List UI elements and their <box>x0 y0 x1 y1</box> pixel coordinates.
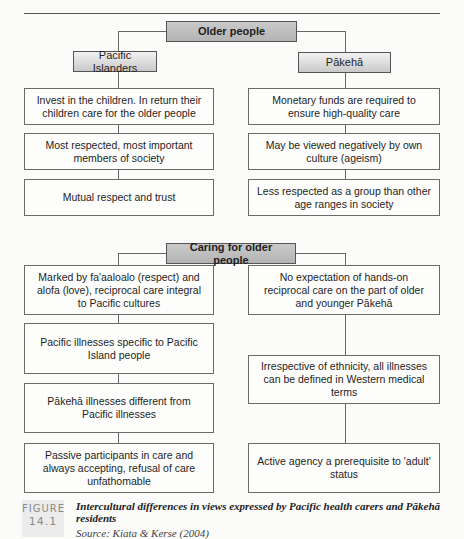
connector <box>345 73 346 88</box>
older-people-header: Older people <box>166 21 297 42</box>
pakeha-care-box: Irrespective of ethnicity, all illnesses… <box>248 355 440 404</box>
connector <box>297 31 345 32</box>
connector <box>345 404 346 443</box>
connector <box>118 31 166 32</box>
pakeha-view-box: May be viewed negatively by own culture … <box>248 133 440 170</box>
top-rule <box>24 13 440 14</box>
connector <box>118 124 119 133</box>
connector <box>345 315 346 355</box>
connector <box>345 169 346 179</box>
pacific-care-box: Pacific illnesses specific to Pacific Is… <box>24 323 214 374</box>
connector <box>118 169 119 179</box>
figure-label-word: FIGURE <box>22 502 64 515</box>
pacific-care-box: Pākehā illnesses different from Pacific … <box>24 383 214 433</box>
pacific-care-box: Marked by fa'aaloalo (respect) and alofa… <box>24 265 214 315</box>
pakeha-care-box: Active agency a prerequisite to 'adult' … <box>248 443 440 493</box>
connector <box>296 253 345 254</box>
pacific-view-box: Most respected, most important members o… <box>24 133 214 170</box>
connector <box>118 253 119 265</box>
connector <box>118 433 119 443</box>
pakeha-view-box: Less respected as a group than other age… <box>248 179 440 216</box>
pacific-view-box: Invest in the children. In return their … <box>24 88 214 125</box>
connector <box>345 31 346 52</box>
pacific-islanders-header: Pacific Islanders <box>73 51 157 72</box>
connector <box>118 315 119 323</box>
connector <box>118 374 119 383</box>
figure-label-number: 14.1 <box>22 515 64 528</box>
figure-caption: Intercultural differences in views expre… <box>76 500 456 524</box>
caring-header: Caring for older people <box>166 243 296 264</box>
connector <box>118 253 166 254</box>
pacific-view-box: Mutual respect and trust <box>24 179 214 216</box>
connector <box>345 124 346 133</box>
connector <box>345 253 346 265</box>
pakeha-header: Pākehā <box>298 52 391 73</box>
figure-label: FIGURE 14.1 <box>22 500 64 537</box>
figure-source: Source: Kiata & Kerse (2004) <box>76 527 456 539</box>
pacific-care-box: Passive participants in care and always … <box>24 443 214 493</box>
pakeha-care-box: No expectation of hands-on reciprocal ca… <box>248 265 440 315</box>
pakeha-view-box: Monetary funds are required to ensure hi… <box>248 88 440 125</box>
